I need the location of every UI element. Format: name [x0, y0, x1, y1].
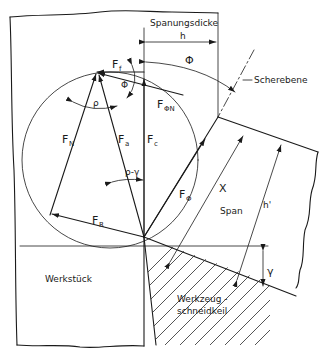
svg-text:a: a: [125, 140, 129, 148]
fphin-label: F ΦN: [157, 98, 175, 113]
h-label: h: [180, 31, 186, 41]
svg-text:N: N: [69, 140, 74, 148]
tool-flank-face: [144, 237, 156, 345]
shear-plane-line: [218, 50, 254, 117]
ff-label: F f: [112, 58, 122, 73]
force-fphi-vector: [144, 139, 205, 237]
x-label: X: [219, 182, 227, 195]
force-fphin-vector: [98, 73, 183, 95]
svg-text:c: c: [154, 140, 158, 148]
fphi-label: F Φ: [179, 188, 192, 203]
rho-minus-gamma-arc: [112, 179, 143, 182]
force-circle-diagram: Spanungsdicke h Φ Scherebene F f Φ ρ F Φ…: [0, 0, 326, 357]
fa-label: F a: [118, 133, 129, 148]
chip-thickness-label: Spanungsdicke: [150, 18, 219, 28]
fc-label: F c: [147, 133, 158, 148]
svg-text:ΦN: ΦN: [164, 105, 175, 113]
force-circle: [22, 72, 198, 248]
fr-label: F R: [92, 214, 104, 229]
svg-text:F: F: [157, 98, 163, 111]
tool-label-line2: schneidkeil: [177, 306, 227, 316]
svg-text:F: F: [92, 214, 98, 227]
phi-small-label: Φ: [121, 80, 128, 90]
svg-text:F: F: [147, 133, 153, 146]
h-prime-dimension-line: [237, 145, 281, 280]
tool-hatching: [130, 230, 320, 355]
svg-text:F: F: [112, 58, 118, 71]
chip-label: Span: [220, 206, 243, 216]
rho-minus-gamma-label: ρ-γ: [125, 167, 140, 177]
svg-text:F: F: [118, 133, 124, 146]
tool-label-line1: Werkzeug -: [177, 294, 228, 304]
svg-text:F: F: [179, 188, 185, 201]
fn-label: F N: [62, 133, 74, 148]
workpiece-label: Werkstück: [45, 274, 93, 284]
phi-top-label: Φ: [185, 54, 194, 67]
svg-text:R: R: [99, 221, 104, 229]
h-prime-label: h': [263, 200, 271, 210]
force-fa-vector: [99, 75, 144, 237]
shear-plane-label: Scherebene: [254, 75, 308, 85]
svg-text:Φ: Φ: [186, 195, 192, 203]
gamma-label: γ: [267, 265, 274, 278]
rho-label: ρ: [93, 98, 99, 108]
svg-text:F: F: [62, 133, 68, 146]
